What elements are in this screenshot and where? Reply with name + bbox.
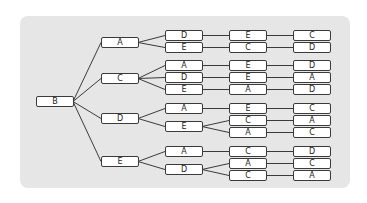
tree-node[interactable]: A bbox=[229, 158, 267, 169]
tree-node[interactable]: C bbox=[229, 115, 267, 126]
tree-node[interactable]: C bbox=[293, 158, 331, 169]
tree-edge bbox=[202, 170, 229, 176]
tree-node[interactable]: D bbox=[165, 164, 203, 175]
tree-node[interactable]: D bbox=[101, 113, 139, 124]
tree-edge bbox=[138, 78, 165, 79]
tree-node[interactable]: C bbox=[293, 30, 331, 41]
tree-edge bbox=[138, 79, 165, 90]
tree-node[interactable]: A bbox=[229, 127, 267, 138]
tree-node[interactable]: D bbox=[293, 146, 331, 157]
tree-node[interactable]: C bbox=[229, 42, 267, 53]
tree-node[interactable]: C bbox=[293, 103, 331, 114]
tree-node[interactable]: D bbox=[293, 42, 331, 53]
tree-node[interactable]: C bbox=[229, 170, 267, 181]
tree-edge bbox=[202, 127, 229, 133]
tree-edge bbox=[73, 79, 101, 102]
tree-edge bbox=[202, 164, 229, 170]
tree-edge bbox=[138, 43, 165, 48]
tree-node[interactable]: E bbox=[165, 42, 203, 53]
tree-edge bbox=[138, 66, 165, 79]
tree-edge bbox=[73, 43, 101, 102]
tree-node[interactable]: C bbox=[229, 146, 267, 157]
tree-node[interactable]: E bbox=[101, 156, 139, 167]
tree-edge bbox=[138, 36, 165, 43]
tree-node[interactable]: E bbox=[229, 103, 267, 114]
tree-node[interactable]: E bbox=[229, 30, 267, 41]
tree-node[interactable]: E bbox=[229, 60, 267, 71]
tree-edge bbox=[138, 152, 165, 162]
tree-node[interactable]: E bbox=[165, 121, 203, 132]
tree-edge bbox=[138, 109, 165, 119]
tree-node[interactable]: D bbox=[165, 72, 203, 83]
tree-node[interactable]: A bbox=[229, 84, 267, 95]
tree-node[interactable]: D bbox=[165, 30, 203, 41]
tree-node[interactable]: A bbox=[165, 60, 203, 71]
tree-edge bbox=[202, 121, 229, 127]
tree-node[interactable]: A bbox=[293, 72, 331, 83]
tree-node[interactable]: E bbox=[165, 84, 203, 95]
tree-node[interactable]: A bbox=[293, 170, 331, 181]
tree-node[interactable]: C bbox=[101, 73, 139, 84]
tree-node[interactable]: D bbox=[293, 60, 331, 71]
tree-node[interactable]: D bbox=[293, 84, 331, 95]
tree-node[interactable]: A bbox=[165, 103, 203, 114]
tree-edge bbox=[138, 119, 165, 127]
tree-node[interactable]: E bbox=[229, 72, 267, 83]
tree-node[interactable]: A bbox=[293, 115, 331, 126]
tree-root-node[interactable]: B bbox=[36, 96, 74, 107]
tree-edge bbox=[138, 162, 165, 170]
tree-node[interactable]: C bbox=[293, 127, 331, 138]
tree-node[interactable]: A bbox=[165, 146, 203, 157]
tree-node[interactable]: A bbox=[101, 37, 139, 48]
